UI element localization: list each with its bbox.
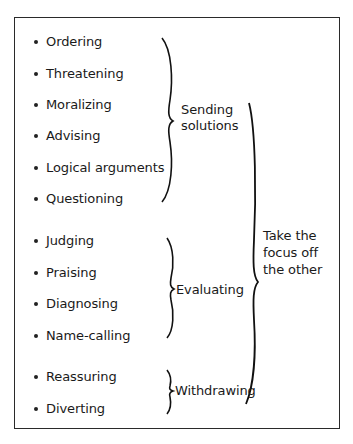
group-label-sending-solutions: Sending solutions [181, 102, 238, 134]
outer-label-line: focus off [263, 244, 322, 261]
outer-label-line: the other [263, 261, 322, 278]
brace-withdrawing-icon [167, 370, 173, 414]
outer-label-line: Take the [263, 227, 322, 244]
braces-layer [0, 0, 353, 444]
brace-take-focus-off-icon [246, 103, 258, 404]
brace-evaluating-icon [167, 238, 174, 338]
group-label-line: solutions [181, 118, 238, 134]
group-label-line: Sending [181, 102, 238, 118]
group-label-withdrawing: Withdrawing [175, 383, 256, 399]
brace-sending-solutions-icon [162, 38, 173, 202]
outer-group-label: Take the focus off the other [263, 227, 322, 278]
group-label-evaluating: Evaluating [176, 282, 244, 298]
